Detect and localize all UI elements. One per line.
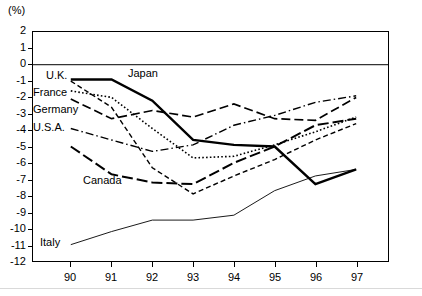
- y-axis-tick-label: -12: [0, 256, 26, 267]
- series-line-france: [71, 91, 356, 158]
- series-label-france: France: [33, 87, 67, 98]
- series-canvas: [33, 32, 388, 261]
- plot-area: [32, 31, 389, 262]
- y-axis-tick-label: -5: [0, 141, 26, 152]
- y-axis-tick-label: -1: [0, 75, 26, 86]
- x-axis-tick-mark: [275, 262, 276, 267]
- x-axis-tick-label: 96: [301, 272, 331, 283]
- x-axis-tick-label: 93: [178, 272, 208, 283]
- y-axis-tick-label: -8: [0, 190, 26, 201]
- series-label-italy: Italy: [40, 237, 60, 248]
- x-axis-tick-mark: [357, 262, 358, 267]
- x-axis-tick-mark: [193, 262, 194, 267]
- y-axis-tick-label: -11: [0, 240, 26, 251]
- y-axis-tick-label: -9: [0, 207, 26, 218]
- y-axis-tick-label: -4: [0, 124, 26, 135]
- series-label-canada: Canada: [83, 175, 122, 186]
- page-divider: [0, 288, 422, 289]
- x-axis-tick-label: 94: [219, 272, 249, 283]
- x-axis-tick-label: 92: [137, 272, 167, 283]
- y-axis-tick-label: -6: [0, 157, 26, 168]
- series-label-germany: Germany: [33, 104, 78, 115]
- y-axis-tick-label: -2: [0, 91, 26, 102]
- x-axis-tick-label: 97: [342, 272, 372, 283]
- y-axis-tick-label: -7: [0, 174, 26, 185]
- y-axis-tick-label: -3: [0, 108, 26, 119]
- y-axis-tick-label: 2: [0, 25, 26, 36]
- y-axis-tick-label: 0: [0, 58, 26, 69]
- y-axis-tick-label: 1: [0, 42, 26, 53]
- series-label-usa: U.S.A.: [33, 122, 65, 133]
- x-axis-tick-mark: [111, 262, 112, 267]
- series-label-japan: Japan: [128, 68, 158, 79]
- chart-figure: (%) 210-1-2-3-4-5-6-7-8-9-10-11-12 90919…: [0, 0, 422, 296]
- x-axis-tick-mark: [152, 262, 153, 267]
- y-axis-tick-label: -10: [0, 223, 26, 234]
- x-axis-tick-mark: [70, 262, 71, 267]
- x-axis-tick-label: 90: [55, 272, 85, 283]
- x-axis-tick-label: 95: [260, 272, 290, 283]
- x-axis-tick-label: 91: [96, 272, 126, 283]
- series-label-uk: U.K.: [46, 70, 67, 81]
- series-line-germany: [71, 97, 356, 120]
- x-axis-tick-mark: [234, 262, 235, 267]
- x-axis-tick-mark: [316, 262, 317, 267]
